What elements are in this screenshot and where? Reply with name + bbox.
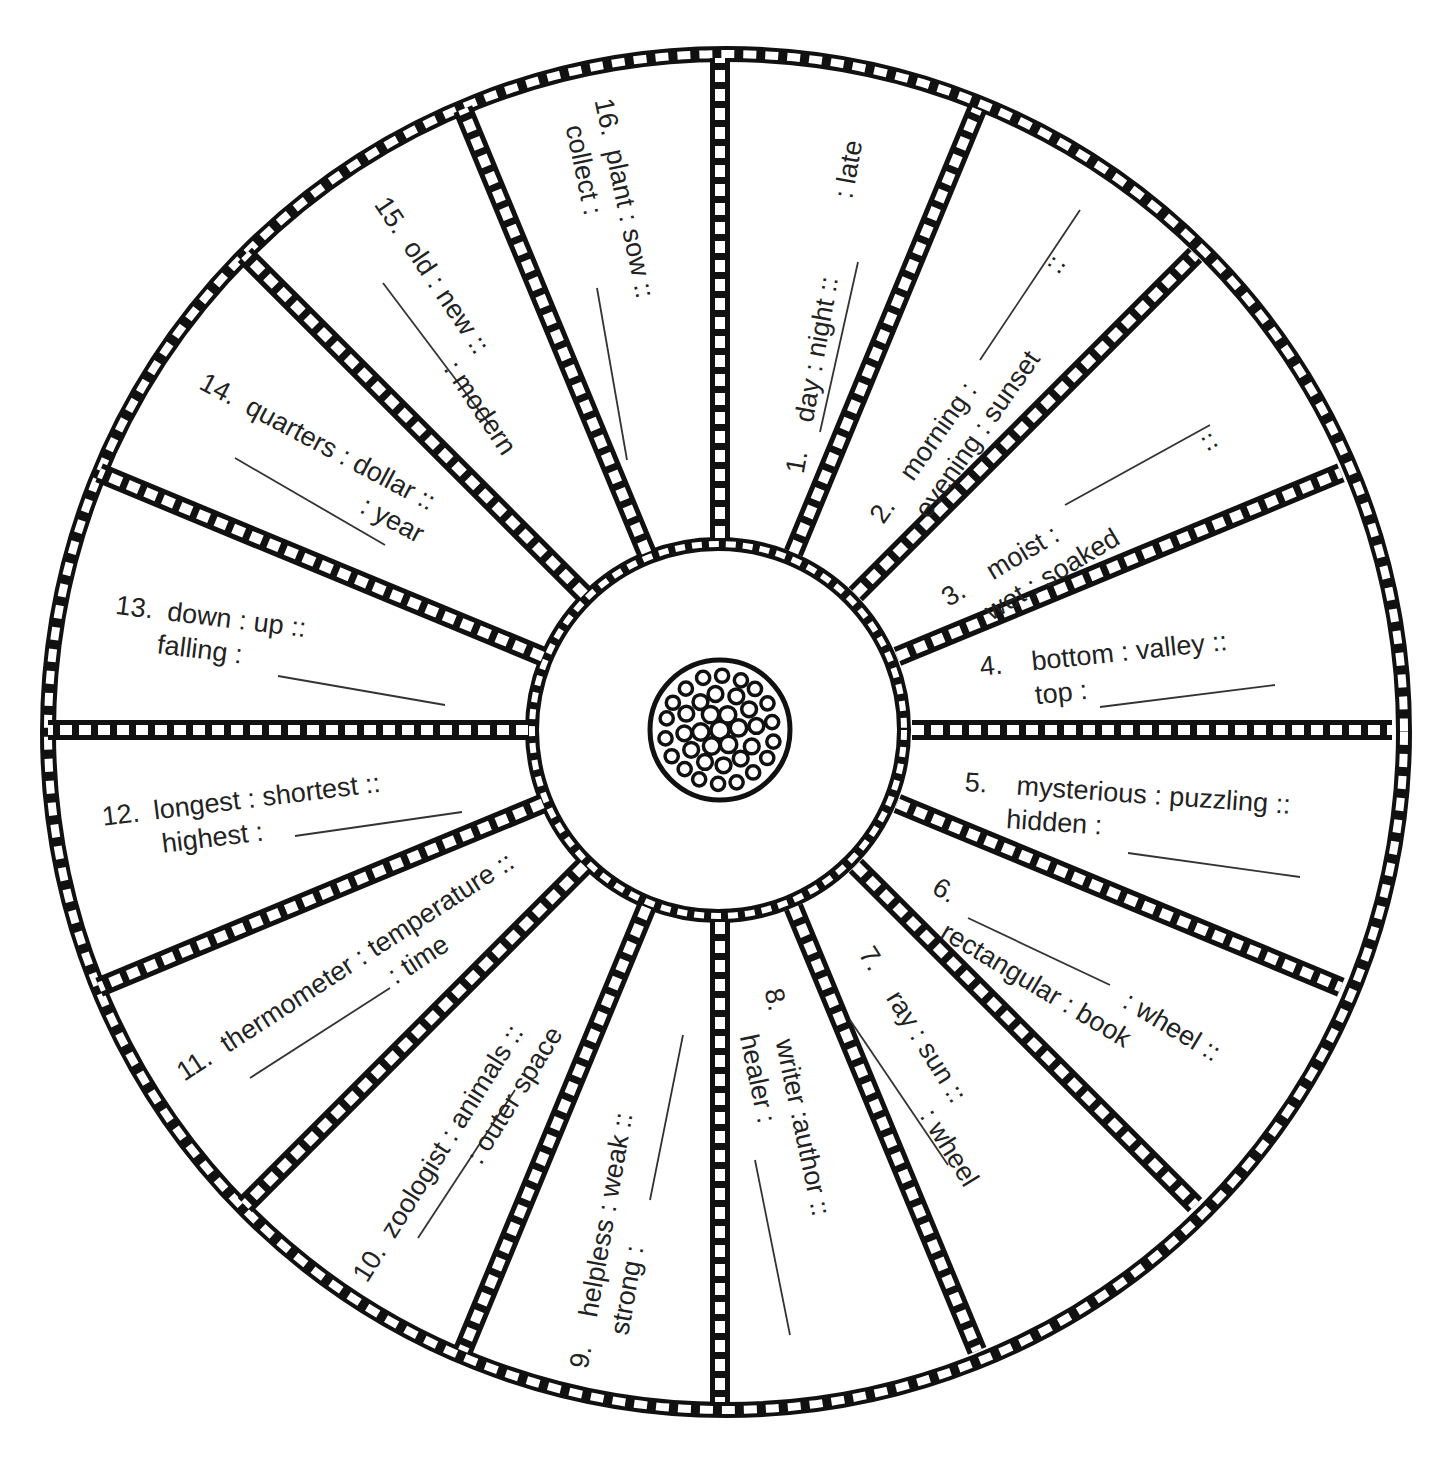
analogy-wheel: [0, 0, 1456, 1472]
answer-blank-line: [1128, 853, 1300, 877]
item-number: 5.: [964, 765, 1018, 803]
cell-cluster-icon: [650, 660, 790, 800]
item-number: 13.: [114, 588, 170, 628]
item-number: 4.: [978, 645, 1033, 684]
answer-blank-line: [278, 676, 445, 705]
item-number: 12.: [100, 794, 156, 834]
